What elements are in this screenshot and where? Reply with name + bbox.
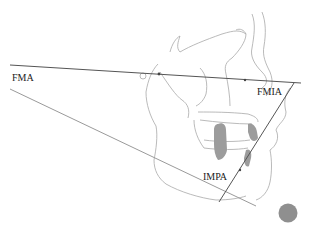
incisor-axis-line [219,83,294,202]
impa-label: IMPA [203,171,228,182]
molar-tooth [214,123,227,160]
cephalometric-diagram: FMA FMIA IMPA [0,0,309,228]
porion-point [158,73,161,76]
fmia-label: FMIA [257,86,283,97]
marker-circle [279,204,298,223]
orbitale-point [244,79,246,81]
fma-label: FMA [12,72,34,83]
incisor-point [239,169,241,171]
teeth [214,123,258,166]
frankfort-horizontal-line [10,65,301,83]
incisor-tooth [248,123,258,141]
